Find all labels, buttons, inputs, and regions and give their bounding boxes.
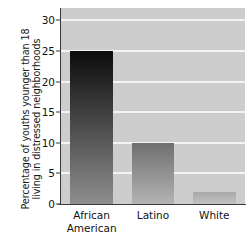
bar xyxy=(70,51,113,204)
x-axis-tick-label-line: White xyxy=(184,209,245,222)
x-axis-tick-label-line: Latino xyxy=(122,209,183,222)
y-axis-tick-mark xyxy=(56,204,61,205)
y-axis-tick-label: 20 xyxy=(33,76,55,88)
x-axis-tick-label: Latino xyxy=(122,209,183,222)
y-axis-title-line-1: Percentage of youths younger than 18 xyxy=(19,29,30,210)
x-axis-tick-label: AfricanAmerican xyxy=(61,209,122,234)
y-axis-tick-label: 15 xyxy=(33,106,55,118)
bar xyxy=(132,143,175,204)
y-axis-tick-mark xyxy=(56,81,61,82)
y-axis-tick-mark xyxy=(56,142,61,143)
x-axis-line xyxy=(58,204,246,205)
x-axis-tick-labels: AfricanAmericanLatinoWhite xyxy=(61,209,245,249)
bar xyxy=(193,192,236,204)
y-axis-tick-mark xyxy=(56,20,61,21)
y-axis-tick-labels: 051015202530 xyxy=(33,0,55,249)
x-axis-tick-label: White xyxy=(184,209,245,222)
x-axis-tick-label-line: African xyxy=(61,209,122,222)
y-axis-tick-label: 25 xyxy=(33,45,55,57)
plot-area xyxy=(61,8,245,204)
x-axis-tick-label-line: American xyxy=(61,222,122,235)
y-axis-tick-mark xyxy=(56,173,61,174)
y-axis-tick-label: 5 xyxy=(33,167,55,179)
bar-chart: Percentage of youths younger than 18 liv… xyxy=(0,0,252,249)
y-axis-tick-mark xyxy=(56,112,61,113)
y-axis-tick-label: 30 xyxy=(33,14,55,26)
y-axis-tick-label: 10 xyxy=(33,137,55,149)
y-axis-tick-mark xyxy=(56,50,61,51)
gridline xyxy=(61,19,245,21)
y-axis-tick-label: 0 xyxy=(33,198,55,210)
